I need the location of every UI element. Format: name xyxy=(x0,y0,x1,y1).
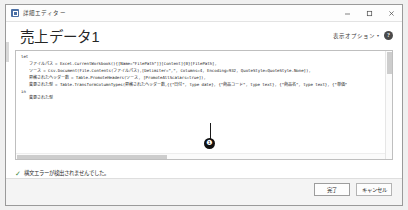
display-options-dropdown[interactable]: 表示オプション ▾ xyxy=(333,32,379,40)
dialog-header: 売上データ1 表示オプション ▾ ? xyxy=(6,22,402,49)
code-editor-panel[interactable]: letファイルパス = Excel.CurrentWorkbook(){[Nam… xyxy=(15,50,393,160)
window-title: 詳細エディター xyxy=(23,9,66,17)
horizontal-scrollbar[interactable] xyxy=(16,153,385,159)
maximize-icon[interactable] xyxy=(358,5,380,22)
chevron-down-icon: ▾ xyxy=(377,34,379,38)
query-name-title: 売上データ1 xyxy=(20,25,100,46)
advanced-editor-dialog: 詳細エディター 売上データ1 表示オプション ▾ xyxy=(0,0,408,210)
vertical-scrollbar[interactable] xyxy=(385,51,392,159)
done-button[interactable]: 完了 xyxy=(314,183,350,196)
dialog-frame: 詳細エディター 売上データ1 表示オプション ▾ xyxy=(5,4,403,206)
code-line: 昇格されたヘッダー数 = Table.PromoteHeaders(ソース, [… xyxy=(16,75,385,82)
code-line: ソース = Csv.Document(File.Contents(ファイルパス)… xyxy=(16,68,385,75)
code-line: let xyxy=(16,54,385,61)
minimize-icon[interactable] xyxy=(336,5,358,22)
code-line: in xyxy=(16,89,385,96)
dialog-footer: 完了 キャンセル xyxy=(6,178,402,205)
code-line: ファイルパス = Excel.CurrentWorkbook(){[Name="… xyxy=(16,61,385,68)
header-actions: 表示オプション ▾ ? xyxy=(333,31,393,40)
vertical-scrollbar-thumb[interactable] xyxy=(387,52,392,74)
code-line: 変更された型 xyxy=(16,95,385,102)
horizontal-scrollbar-thumb[interactable] xyxy=(17,155,167,159)
cancel-button[interactable]: キャンセル xyxy=(356,183,392,196)
display-options-label: 表示オプション xyxy=(333,32,375,40)
window-controls xyxy=(336,5,402,22)
query-editor-icon xyxy=(11,9,19,17)
syntax-status-text: 構文エラーが検出されませんでした。 xyxy=(24,169,109,177)
code-line: 変更された型 = Table.TransformColumnTypes(昇格され… xyxy=(16,82,385,89)
title-bar: 詳細エディター xyxy=(6,5,402,22)
close-icon[interactable] xyxy=(380,5,402,22)
code-text-area[interactable]: letファイルパス = Excel.CurrentWorkbook(){[Nam… xyxy=(16,51,385,153)
check-icon: ✓ xyxy=(15,170,21,177)
header-accent-bar xyxy=(6,42,9,62)
help-icon[interactable]: ? xyxy=(384,31,393,40)
footer-buttons: 完了 キャンセル xyxy=(314,183,392,196)
